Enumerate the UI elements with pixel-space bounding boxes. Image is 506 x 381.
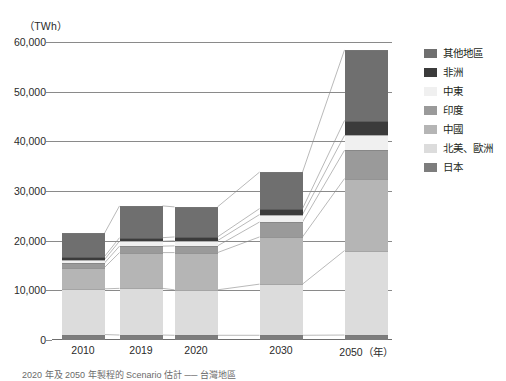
legend-item-中東[interactable]: 中東 bbox=[424, 86, 506, 97]
bar-segment-中國[interactable] bbox=[120, 253, 163, 289]
bar-segment-中國[interactable] bbox=[345, 179, 388, 251]
y-axis-tick-label: 10,000 bbox=[14, 284, 46, 296]
x-axis-labels: 20102019202020302050（年） bbox=[52, 344, 392, 360]
connector-line bbox=[218, 222, 260, 246]
y-axis-tick-label: 50,000 bbox=[14, 86, 46, 98]
legend-swatch-icon bbox=[424, 49, 437, 58]
bar-segment-其他地區[interactable] bbox=[260, 172, 303, 209]
legend-item-印度[interactable]: 印度 bbox=[424, 105, 506, 116]
bar-segment-日本[interactable] bbox=[62, 335, 105, 340]
legend-label: 其他地區 bbox=[443, 48, 483, 59]
bar-segment-印度[interactable] bbox=[345, 150, 388, 178]
connector-line bbox=[303, 135, 345, 214]
bar-2010[interactable] bbox=[62, 233, 105, 340]
gridline bbox=[52, 42, 392, 43]
bar-segment-北美、歐洲[interactable] bbox=[175, 290, 218, 335]
legend-label: 北美、歐洲 bbox=[443, 143, 493, 154]
legend-swatch-icon bbox=[424, 68, 437, 77]
legend-item-中國[interactable]: 中國 bbox=[424, 124, 506, 135]
bar-segment-其他地區[interactable] bbox=[62, 233, 105, 256]
x-axis-label-2019: 2019 bbox=[129, 344, 152, 356]
connector-line bbox=[303, 50, 345, 172]
bar-segment-中國[interactable] bbox=[260, 237, 303, 284]
legend-swatch-icon bbox=[424, 144, 437, 153]
bar-segment-北美、歐洲[interactable] bbox=[260, 284, 303, 335]
y-axis-tick-label: 20,000 bbox=[14, 235, 46, 247]
legend-label: 中國 bbox=[443, 124, 463, 135]
legend-swatch-icon bbox=[424, 163, 437, 172]
chart-legend: 其他地區非洲中東印度中國北美、歐洲日本 bbox=[424, 48, 506, 173]
y-axis-tick-label: 40,000 bbox=[14, 135, 46, 147]
connector-line bbox=[303, 179, 345, 237]
connector-line bbox=[218, 215, 260, 241]
y-axis-tick-label: 30,000 bbox=[14, 185, 46, 197]
gridline bbox=[52, 92, 392, 93]
chart-caption: 2020 年及 2050 年製程的 Scenario 估計 ── 台灣地區 bbox=[22, 368, 482, 381]
legend-label: 日本 bbox=[443, 162, 463, 173]
legend-swatch-icon bbox=[424, 87, 437, 96]
bar-2050[interactable] bbox=[345, 50, 388, 340]
bar-2019[interactable] bbox=[120, 206, 163, 340]
connector-line bbox=[218, 284, 260, 290]
bar-segment-中東[interactable] bbox=[345, 135, 388, 150]
legend-label: 印度 bbox=[443, 105, 463, 116]
connector-line bbox=[105, 241, 120, 259]
bar-2030[interactable] bbox=[260, 172, 303, 340]
y-axis-tick-column: 60,00050,00040,00030,00020,00010,0000 bbox=[0, 42, 46, 340]
connector-line bbox=[105, 206, 120, 233]
bar-segment-中國[interactable] bbox=[62, 268, 105, 289]
connector-line bbox=[303, 150, 345, 222]
bar-2020[interactable] bbox=[175, 207, 218, 340]
bar-segment-其他地區[interactable] bbox=[345, 50, 388, 121]
plot-area bbox=[52, 42, 392, 340]
connector-line bbox=[218, 172, 260, 207]
connector-line bbox=[105, 246, 120, 263]
gridline bbox=[52, 191, 392, 192]
bar-segment-其他地區[interactable] bbox=[175, 207, 218, 237]
bar-segment-北美、歐洲[interactable] bbox=[62, 289, 105, 335]
x-axis-label-2010: 2010 bbox=[71, 344, 94, 356]
bar-segment-日本[interactable] bbox=[175, 335, 218, 340]
bar-segment-日本[interactable] bbox=[120, 335, 163, 340]
gridline bbox=[52, 141, 392, 142]
connector-line bbox=[163, 237, 175, 238]
bar-segment-非洲[interactable] bbox=[345, 121, 388, 136]
bar-segment-日本[interactable] bbox=[345, 335, 388, 340]
legend-label: 非洲 bbox=[443, 67, 463, 78]
x-axis-label-2050: 2050（年） bbox=[339, 344, 392, 359]
x-axis-label-2030: 2030 bbox=[269, 344, 292, 356]
connector-line bbox=[218, 209, 260, 237]
connector-line bbox=[303, 251, 345, 285]
legend-swatch-icon bbox=[424, 125, 437, 134]
y-axis-unit-label: （TWh） bbox=[24, 18, 67, 33]
y-axis-tick-label: 60,000 bbox=[14, 36, 46, 48]
legend-item-非洲[interactable]: 非洲 bbox=[424, 67, 506, 78]
legend-item-日本[interactable]: 日本 bbox=[424, 162, 506, 173]
bar-segment-日本[interactable] bbox=[260, 335, 303, 340]
bar-segment-中國[interactable] bbox=[175, 253, 218, 290]
legend-item-北美、歐洲[interactable]: 北美、歐洲 bbox=[424, 143, 506, 154]
connector-line bbox=[218, 237, 260, 253]
connector-line bbox=[303, 120, 345, 208]
x-axis-label-2020: 2020 bbox=[184, 344, 207, 356]
bar-segment-中東[interactable] bbox=[260, 215, 303, 222]
legend-item-其他地區[interactable]: 其他地區 bbox=[424, 48, 506, 59]
bar-segment-印度[interactable] bbox=[260, 222, 303, 237]
connector-line bbox=[163, 206, 175, 207]
bar-segment-北美、歐洲[interactable] bbox=[120, 288, 163, 335]
legend-swatch-icon bbox=[424, 106, 437, 115]
bar-segment-其他地區[interactable] bbox=[120, 206, 163, 238]
legend-label: 中東 bbox=[443, 86, 463, 97]
y-axis-tick-mark bbox=[46, 340, 52, 341]
connector-line bbox=[105, 253, 120, 268]
bar-segment-北美、歐洲[interactable] bbox=[345, 251, 388, 335]
bar-segment-印度[interactable] bbox=[175, 246, 218, 253]
